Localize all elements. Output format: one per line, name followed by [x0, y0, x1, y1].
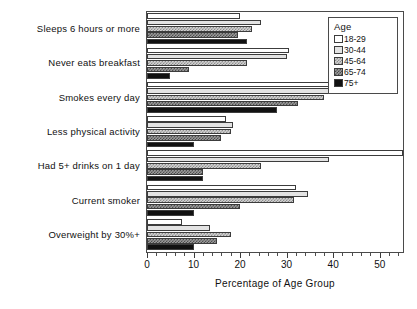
x-tick-minor	[370, 253, 371, 256]
x-tick-minor	[305, 253, 306, 256]
bar	[147, 135, 221, 141]
x-tick-label: 50	[374, 259, 385, 270]
bar	[147, 204, 240, 210]
x-tick-minor	[166, 253, 167, 256]
x-tick-minor	[231, 253, 232, 256]
bar	[147, 26, 252, 32]
category-axis: Sleeps 6 hours or moreNever eats breakfa…	[0, 11, 143, 253]
bar	[147, 191, 308, 197]
x-tick-minor	[398, 253, 399, 256]
bar	[147, 67, 189, 73]
bar	[147, 73, 170, 79]
bar	[147, 82, 342, 88]
legend-swatch-icon	[334, 68, 343, 76]
bar	[147, 176, 203, 182]
x-tick-minor	[175, 253, 176, 256]
x-tick-minor	[268, 253, 269, 256]
x-tick-minor	[315, 253, 316, 256]
bar	[147, 129, 231, 135]
x-tick-minor	[221, 253, 222, 256]
bar	[147, 219, 182, 225]
legend-item: 65-74	[334, 67, 393, 77]
bar	[147, 116, 226, 122]
bar	[147, 238, 217, 244]
x-tick-label: 10	[188, 259, 199, 270]
bar	[147, 163, 261, 169]
bar	[147, 142, 194, 148]
x-tick-minor	[361, 253, 362, 256]
bar	[147, 157, 329, 163]
x-tick-major	[380, 253, 381, 258]
category-label: Had 5+ drinks on 1 day	[38, 160, 140, 171]
x-tick-label: 0	[144, 259, 150, 270]
x-tick-minor	[203, 253, 204, 256]
bar	[147, 95, 324, 101]
x-axis: 01020304050	[146, 253, 404, 279]
bar	[147, 232, 231, 238]
legend-swatch-icon	[334, 57, 343, 65]
bar-chart-figure: Sleeps 6 hours or moreNever eats breakfa…	[0, 0, 417, 309]
legend-item: 45-64	[334, 56, 393, 66]
legend-swatch-icon	[334, 79, 343, 87]
bar	[147, 197, 294, 203]
category-label: Current smoker	[72, 194, 140, 205]
legend-item: 75+	[334, 78, 393, 88]
bar	[147, 39, 247, 45]
legend-title: Age	[334, 21, 393, 32]
bar	[147, 32, 238, 38]
category-label: Overweight by 30%+	[48, 228, 140, 239]
legend: Age 18-2930-4445-6465-7475+	[328, 17, 398, 94]
x-tick-minor	[212, 253, 213, 256]
x-tick-minor	[156, 253, 157, 256]
x-tick-minor	[352, 253, 353, 256]
x-tick-major	[333, 253, 334, 258]
category-label: Sleeps 6 hours or more	[37, 23, 140, 34]
x-tick-minor	[389, 253, 390, 256]
bar	[147, 122, 233, 128]
x-tick-label: 20	[235, 259, 246, 270]
legend-label: 65-74	[344, 67, 366, 77]
x-tick-label: 30	[281, 259, 292, 270]
bar	[147, 48, 289, 54]
x-tick-minor	[342, 253, 343, 256]
bar	[147, 225, 210, 231]
bar	[147, 13, 240, 19]
x-tick-label: 40	[328, 259, 339, 270]
bar	[147, 54, 287, 60]
x-tick-minor	[296, 253, 297, 256]
bar	[147, 60, 247, 66]
category-label: Smokes every day	[59, 91, 140, 102]
x-tick-minor	[277, 253, 278, 256]
bar	[147, 244, 194, 250]
x-tick-minor	[259, 253, 260, 256]
bar	[147, 101, 298, 107]
legend-label: 45-64	[344, 56, 366, 66]
x-tick-major	[194, 253, 195, 258]
bar	[147, 88, 340, 94]
bar	[147, 107, 277, 113]
x-tick-major	[240, 253, 241, 258]
legend-label: 18-29	[344, 34, 366, 44]
bar	[147, 150, 403, 156]
legend-item: 18-29	[334, 34, 393, 44]
category-label: Less physical activity	[47, 126, 140, 137]
x-tick-major	[147, 253, 148, 258]
x-tick-major	[287, 253, 288, 258]
x-tick-minor	[184, 253, 185, 256]
bar	[147, 210, 194, 216]
bar	[147, 20, 261, 26]
legend-label: 30-44	[344, 45, 366, 55]
legend-swatch-icon	[334, 35, 343, 43]
bar	[147, 169, 203, 175]
legend-item: 30-44	[334, 45, 393, 55]
x-axis-title: Percentage of Age Group	[146, 278, 404, 289]
bar	[147, 185, 296, 191]
legend-label: 75+	[344, 78, 358, 88]
legend-rows: 18-2930-4445-6465-7475+	[334, 34, 393, 88]
x-tick-minor	[324, 253, 325, 256]
category-label: Never eats breakfast	[48, 57, 140, 68]
legend-swatch-icon	[334, 46, 343, 54]
x-tick-minor	[249, 253, 250, 256]
